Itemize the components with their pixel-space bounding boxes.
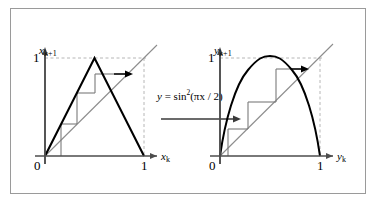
- tent-origin-label: 0: [34, 159, 41, 172]
- tent-x-tick-one: 1: [141, 159, 148, 172]
- cobweb-staircase: [228, 69, 291, 156]
- identity-diagonal-line: [45, 45, 157, 156]
- figure-frame: xk+1 xk 1 1 0 y = sin2(πx / 2): [10, 8, 366, 194]
- sine-squared-map-panel: yk+1 yk 1 1 0: [201, 9, 371, 195]
- sine-x-axis-label: yk: [337, 151, 346, 162]
- figure-root: xk+1 xk 1 1 0 y = sin2(πx / 2): [0, 0, 379, 212]
- sine-x-tick-one: 1: [317, 159, 324, 172]
- cobweb-staircase: [61, 74, 114, 156]
- sine-origin-label: 0: [209, 159, 216, 172]
- x-axis-arrowhead-icon: [326, 153, 333, 159]
- tent-x-axis-label: xk: [161, 151, 170, 162]
- sine-y-axis-label: yk+1: [214, 45, 232, 56]
- sine-squared-map-svg: [201, 9, 371, 195]
- tent-y-tick-one: 1: [33, 51, 40, 64]
- tent-y-axis-label: xk+1: [39, 45, 57, 56]
- sine-y-tick-one: 1: [208, 51, 215, 64]
- x-axis-arrowhead-icon: [150, 153, 157, 159]
